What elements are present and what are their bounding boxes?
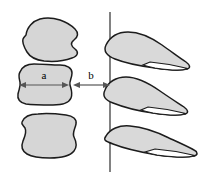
wing-bottom-group bbox=[105, 126, 197, 157]
dimension-a-label: a bbox=[42, 69, 47, 81]
blob-top-shape bbox=[23, 18, 78, 61]
wing-top-group bbox=[105, 32, 190, 70]
figure-container: a b bbox=[0, 0, 202, 175]
dimension-b-group: b bbox=[73, 69, 110, 88]
dimension-b-label: b bbox=[88, 69, 94, 81]
dimension-b-arrowhead-left bbox=[73, 82, 80, 88]
wing-middle-group bbox=[104, 77, 188, 115]
diagram-canvas: a b bbox=[0, 0, 202, 175]
blob-bottom-shape bbox=[22, 114, 77, 158]
